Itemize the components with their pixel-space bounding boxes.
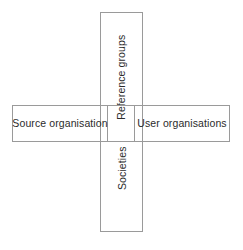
- box-source-organisation: Source organisation: [12, 105, 108, 142]
- diagram-canvas: Reference groups Societies Source organi…: [0, 0, 243, 250]
- box-societies-label: Societies: [116, 147, 127, 191]
- box-user-organisations: User organisations: [134, 105, 230, 142]
- box-user-organisations-label: User organisations: [137, 118, 226, 129]
- box-source-organisation-label: Source organisation: [12, 118, 107, 129]
